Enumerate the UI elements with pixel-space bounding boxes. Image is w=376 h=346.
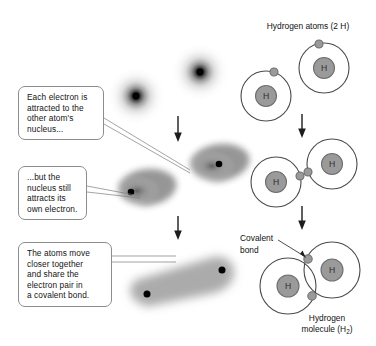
callout-line: other atom's [27,113,96,124]
nucleus-symbol: H [263,91,269,101]
hydrogen-molecule-line2: molecule (H2) [281,324,373,335]
callout-line: nucleus still [27,183,79,194]
nucleus-symbol: H [273,177,279,187]
nucleus-symbol: H [321,63,327,73]
bohr-stage-separate [241,40,349,121]
arrow-stage-1-to-2 [174,116,182,142]
callout-nucleus-attraction: ...but the nucleus still attracts its ow… [18,166,87,220]
callout-line: attracts its [27,193,79,204]
callout-line: attracted to the [27,103,96,114]
cloud-stage-separate [106,42,230,126]
callout-covalent-bond: The atoms move closer together and share… [18,242,112,307]
hydrogen-molecule-line1: Hydrogen [281,313,373,324]
molecule-formula-subscript: 2 [346,328,350,335]
callout-line: a covalent bond. [27,290,104,301]
hydrogen-atoms-title: Hydrogen atoms (2 H) [243,21,373,32]
arrow-stage-2-to-3 [174,216,182,240]
nucleus-symbol: H [329,159,335,169]
callout-line: Each electron is [27,92,96,103]
arrow-bohr-2-to-3 [298,206,306,230]
arrow-bohr-1-to-2 [298,114,306,138]
callout-line: ...but the [27,172,79,183]
covalent-bond-label-line2: bond [240,245,296,257]
bohr-model-graphics: H H H H H H [232,0,376,346]
molecule-formula-prefix: molecule (H [301,324,346,334]
callout-electron-attraction: Each electron is attracted to the other … [18,86,104,140]
callout-line: nucleus... [27,124,96,135]
callout-line: closer together [27,259,104,270]
nucleus-symbol: H [285,281,291,291]
covalent-bond-arrowhead [300,251,306,259]
hydrogen-molecule-label: Hydrogen molecule (H2) [281,313,373,335]
covalent-bond-label: Covalent bond [240,233,296,256]
callout-line: The atoms move [27,248,104,259]
nucleus-symbol: H [329,265,335,275]
callout-line: and share the [27,269,104,280]
covalent-bond-label-line1: Covalent [240,233,296,245]
callout-line: electron pair in [27,280,104,291]
diagram-canvas: H H H H H H Hydrogen atoms (2 H) Covalen… [0,0,376,346]
cloud-stage-bonded [130,257,234,307]
molecule-formula-suffix: ) [350,324,353,334]
bohr-stage-attracting [251,139,357,207]
callout-line: own electron. [27,204,79,215]
